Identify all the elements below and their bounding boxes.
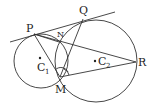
- label-m: M: [55, 83, 66, 96]
- label-n: N: [57, 30, 64, 39]
- label-c1-sub: 1: [45, 68, 49, 76]
- geometry-diagram: P Q N M R C 1 C 2: [0, 0, 154, 111]
- segment-pr: [34, 34, 136, 62]
- label-c2-sub: 2: [106, 62, 110, 70]
- center-dot-c2: [94, 60, 96, 62]
- label-r: R: [138, 56, 147, 69]
- label-q: Q: [79, 4, 88, 17]
- center-dot-c1: [39, 57, 41, 59]
- label-p: P: [26, 22, 34, 35]
